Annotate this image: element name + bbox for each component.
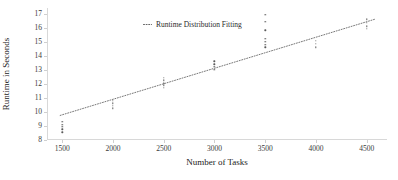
scatter-point [366,26,367,27]
scatter-point [112,105,113,106]
scatter-point [315,47,316,48]
scatter-point [214,66,215,67]
scatter-point [265,30,266,31]
chart-figure: Runtime in Seconds 891011121314151617 15… [0,0,398,180]
y-tick-label: 8 [38,136,42,144]
y-tick-label: 17 [35,10,43,18]
scatter-point [214,63,215,64]
plot-area: 891011121314151617 150020002500300035004… [47,8,387,140]
scatter-point [163,85,164,86]
scatter-point [112,108,113,109]
y-tick-label: 14 [35,52,43,60]
y-tick-label: 11 [35,94,42,102]
x-tick-label: 1500 [55,145,70,153]
x-tick-mark [164,140,165,143]
x-tick-mark [113,140,114,143]
x-tick-label: 4500 [359,145,374,153]
scatter-point [163,80,164,81]
scatter-point [62,132,63,133]
scatter-point [214,61,215,62]
y-axis-label: Runtime in Seconds [1,38,11,111]
x-tick-mark [214,140,215,143]
scatter-point [366,22,367,23]
scatter-point [265,41,266,42]
x-tick-label: 4000 [308,145,323,153]
scatter-point [315,40,316,41]
x-tick-label: 2500 [156,145,171,153]
scatter-point [163,87,164,88]
y-tick-label: 10 [35,108,43,116]
scatter-point [163,77,164,78]
scatter-point [265,47,266,48]
legend-label: Runtime Distribution Fitting [156,20,242,29]
legend-dotted-line-icon [143,21,152,28]
x-tick-mark [316,140,317,143]
scatter-point [366,28,367,29]
y-tick-label: 9 [38,122,42,130]
x-tick-label: 3000 [207,145,222,153]
scatter-point [62,121,63,122]
y-tick-label: 15 [35,38,43,46]
scatter-point [214,69,215,70]
x-tick-mark [265,140,266,143]
scatter-point [315,43,316,44]
scatter-point [265,21,266,22]
y-tick-label: 12 [35,80,43,88]
scatter-point [112,100,113,101]
y-tick-mark [44,140,47,141]
scatter-point [366,19,367,20]
scatter-point [62,129,63,130]
y-tick-label: 13 [35,66,43,74]
x-tick-label: 2000 [105,145,120,153]
x-tick-mark [62,140,63,143]
x-axis-label: Number of Tasks [47,157,387,167]
scatter-point [265,14,266,15]
y-tick-label: 16 [35,24,43,32]
x-tick-mark [367,140,368,143]
scatter-point [265,38,266,39]
scatter-point [265,44,266,45]
scatter-point [62,126,63,127]
legend: Runtime Distribution Fitting [143,20,242,29]
x-tick-label: 3500 [258,145,273,153]
